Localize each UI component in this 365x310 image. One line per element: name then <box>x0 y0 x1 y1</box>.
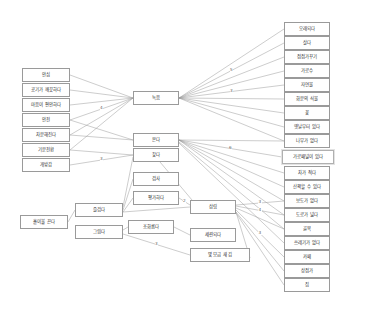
edge-weight-label: 3 <box>155 242 159 246</box>
node-n_chatda[interactable]: 찾다 <box>133 148 179 162</box>
node-n_julgda[interactable]: 즐겁다 <box>75 203 123 217</box>
edge-weight-label: 2 <box>183 199 187 203</box>
node-n_chabun[interactable]: 차분해진다 <box>22 128 70 142</box>
edge-r15-to-n_bonda <box>179 142 284 229</box>
node-n_myeot[interactable]: 몇 모금 새 김 <box>190 248 250 262</box>
node-n_gibun[interactable]: 기분전환 <box>22 143 70 157</box>
node-r15[interactable]: 골목 <box>284 222 330 236</box>
node-n_honja[interactable]: 홀이불 끈다 <box>20 215 68 229</box>
node-r11[interactable]: 차가 적다 <box>284 166 330 180</box>
node-r16[interactable]: 쓰레기가 없다 <box>284 236 330 250</box>
edge-n_julgda-to-n_sanrim <box>123 207 190 212</box>
node-r19[interactable]: 집 <box>284 278 330 292</box>
node-n_mind[interactable]: 마음이 편안하다 <box>22 98 70 112</box>
node-r2[interactable]: 살다 <box>284 36 330 50</box>
node-n_sanrim[interactable]: 삼림 <box>190 200 236 214</box>
edge-n_ansim-to-n_nokum <box>70 75 133 98</box>
edge-r18-to-n_sanrim <box>236 212 284 271</box>
edge-n_air-to-n_nokum <box>70 90 133 98</box>
node-n_gumsa[interactable]: 검사 <box>133 172 179 186</box>
node-r10[interactable]: 가로패널이 있다 <box>282 150 334 164</box>
edge-weight-label: 3 <box>258 200 262 204</box>
edge-r9-to-n_nokum <box>179 98 284 141</box>
edge-n_chabun-to-n_bonda <box>70 135 133 140</box>
edge-n_honja-to-n_julgda <box>68 210 75 222</box>
node-n_bonda[interactable]: 본다 <box>133 133 179 147</box>
node-r5[interactable]: 자연물 <box>284 78 330 92</box>
node-r6[interactable]: 화분의 식물 <box>284 92 330 106</box>
edge-r7-to-n_nokum <box>179 98 284 113</box>
node-n_anjeon[interactable]: 안전 <box>22 113 70 127</box>
node-n_geurida[interactable]: 그립다 <box>75 225 123 239</box>
edge-weight-label: 3 <box>258 231 262 235</box>
edge-weight-label: 4 <box>100 106 104 110</box>
edge-n_anjeon-to-n_bonda <box>70 120 133 140</box>
edge-r4-to-n_nokum <box>179 71 284 98</box>
edge-r8-to-n_nokum <box>179 98 284 127</box>
node-r3[interactable]: 점점가꾸기 <box>284 50 330 64</box>
node-n_johda[interactable]: 조화롭다 <box>128 220 174 234</box>
node-n_pyeongga[interactable]: 평가하다 <box>133 191 179 205</box>
node-r18[interactable]: 상점가 <box>284 264 330 278</box>
node-n_gaebang[interactable]: 개방감 <box>22 158 70 172</box>
node-r9[interactable]: 나무가 없다 <box>284 134 330 148</box>
node-r14[interactable]: 도로가 넓다 <box>284 208 330 222</box>
node-r13[interactable]: 보도가 없다 <box>284 194 330 208</box>
node-r1[interactable]: 오래되다 <box>284 22 330 36</box>
edge-r6-to-n_nokum <box>179 98 284 99</box>
edge-weight-label: 6 <box>229 146 233 150</box>
node-r7[interactable]: 꽃 <box>284 106 330 120</box>
edge-n_julgda-to-n_chatda <box>123 157 133 207</box>
node-r4[interactable]: 가로수 <box>284 64 330 78</box>
node-n_ansim[interactable]: 안심 <box>22 68 70 82</box>
edge-n_johda-to-n_semyon <box>174 227 190 235</box>
edge-n_gibun-to-n_chatda <box>70 150 133 155</box>
edge-weight-label: 3 <box>230 89 234 93</box>
node-n_nokum[interactable]: 녹음 <box>133 91 179 105</box>
node-r12[interactable]: 산책할 수 있다 <box>284 180 330 194</box>
edge-r9-to-n_bonda <box>179 140 284 141</box>
node-n_semyon[interactable]: 세련되다 <box>190 228 236 242</box>
edge-weight-label: 4 <box>258 208 262 212</box>
node-n_air[interactable]: 공기가 깨끗하다 <box>22 83 70 97</box>
edge-weight-label: 5 <box>230 68 234 72</box>
diagram-canvas: 안심공기가 깨끗하다마음이 편안하다안전차분해진다기분전환개방감홀이불 끈다즐겁… <box>0 0 365 310</box>
node-r8[interactable]: 옛날부터 있다 <box>284 120 330 134</box>
node-r17[interactable]: 카페 <box>284 250 330 264</box>
edge-weight-label: 3 <box>100 157 104 161</box>
